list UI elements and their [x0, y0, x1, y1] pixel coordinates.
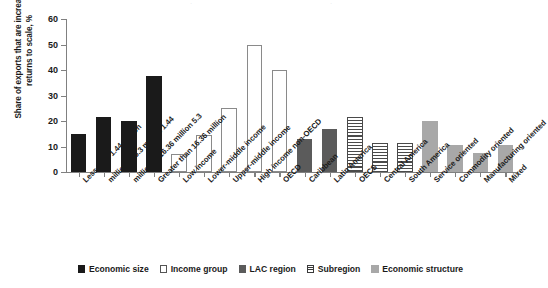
x-tick-mark [405, 172, 406, 177]
x-tick-mark [480, 172, 481, 177]
x-tick-mark [179, 172, 180, 177]
x-tick-mark [279, 172, 280, 177]
y-tick-label: 20 [48, 116, 58, 126]
chart-legend: Economic sizeIncome groupLAC regionSubre… [0, 264, 541, 274]
x-tick-mark [204, 172, 205, 177]
x-tick-mark [380, 172, 381, 177]
x-tick-mark [129, 172, 130, 177]
legend-label: Income group [171, 264, 228, 274]
x-tick-mark [455, 172, 456, 177]
bar-less-than-1-44-million[interactable] [71, 134, 87, 172]
y-tick-label: 50 [48, 40, 58, 50]
x-tick-mark [104, 172, 105, 177]
y-tick-label: 0 [53, 167, 58, 177]
y-tick-mark [61, 172, 66, 173]
legend-swatch-icon [78, 265, 86, 273]
legend-item-income-group[interactable]: Income group [160, 264, 228, 274]
x-tick-mark [229, 172, 230, 177]
legend-swatch-icon [371, 265, 379, 273]
bar-slot [66, 19, 91, 172]
legend-swatch-icon [307, 265, 315, 273]
y-tick-label: 30 [48, 91, 58, 101]
x-tick-mark [505, 172, 506, 177]
legend-label: Economic size [89, 264, 149, 274]
legend-swatch-icon [160, 265, 168, 273]
legend-label: Subregion [318, 264, 361, 274]
x-tick-mark [154, 172, 155, 177]
cropped-header-strip: ... [0, 0, 541, 6]
legend-label: LAC region [250, 264, 296, 274]
x-tick-mark [79, 172, 80, 177]
legend-item-economic-size[interactable]: Economic size [78, 264, 149, 274]
x-tick-mark [430, 172, 431, 177]
legend-item-lac-region[interactable]: LAC region [239, 264, 296, 274]
x-tick-mark [355, 172, 356, 177]
x-axis-category-labels: Less than 1.44 million1.44 million to 5.… [66, 178, 518, 250]
legend-item-economic-structure[interactable]: Economic structure [371, 264, 463, 274]
x-tick-mark [305, 172, 306, 177]
y-tick-label: 10 [48, 142, 58, 152]
legend-item-subregion[interactable]: Subregion [307, 264, 361, 274]
y-tick-label: 60 [48, 14, 58, 24]
y-tick-label: 40 [48, 65, 58, 75]
legend-label: Economic structure [382, 264, 463, 274]
x-tick-mark [330, 172, 331, 177]
x-tick-mark [254, 172, 255, 177]
bar-slot [317, 19, 342, 172]
legend-swatch-icon [239, 265, 247, 273]
y-axis-title: Share of exports that are increasing ret… [14, 0, 35, 131]
